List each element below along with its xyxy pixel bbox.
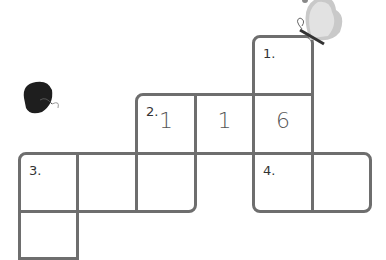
- crossword-cell[interactable]: [311, 152, 372, 213]
- crossword-cell[interactable]: [76, 152, 138, 213]
- cell-value: 1: [138, 108, 194, 133]
- crossword-cell[interactable]: 1: [194, 93, 255, 155]
- crossword-cell[interactable]: 6: [252, 93, 314, 155]
- butterfly-black-icon: [18, 78, 64, 118]
- crossword-cell[interactable]: [18, 210, 79, 260]
- crossword-cell[interactable]: 4.: [252, 152, 314, 213]
- cell-value: 6: [255, 108, 311, 133]
- cell-value: 1: [197, 108, 252, 133]
- crossword-cell[interactable]: 2.1: [135, 93, 197, 155]
- clue-number: 1.: [263, 46, 275, 61]
- clue-number: 4.: [263, 163, 275, 178]
- crossword-cell[interactable]: 3.: [18, 152, 79, 213]
- clue-number: 3.: [29, 163, 41, 178]
- crossword-cell[interactable]: [135, 152, 197, 213]
- butterfly-gray-icon: [288, 0, 352, 48]
